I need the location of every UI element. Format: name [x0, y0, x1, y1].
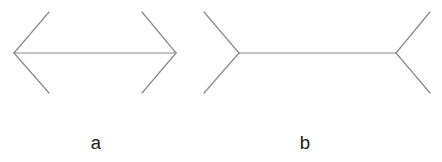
figure-b-fin-left-top	[204, 12, 239, 53]
figure-a-fin-left-bottom	[14, 53, 49, 93]
figure-b-fin-right-top	[396, 12, 430, 53]
muller-lyer-diagram	[0, 0, 442, 162]
figure-a-fin-left-top	[14, 12, 49, 53]
figure-a-fin-right-top	[142, 12, 176, 53]
figure-b-fin-left-bottom	[204, 53, 239, 93]
figure-b	[204, 12, 430, 93]
figure-a	[14, 12, 176, 93]
figure-a-label: a	[81, 132, 111, 156]
figure-a-fin-right-bottom	[142, 53, 176, 93]
figure-b-label: b	[290, 132, 320, 156]
figure-b-fin-right-bottom	[396, 53, 430, 93]
